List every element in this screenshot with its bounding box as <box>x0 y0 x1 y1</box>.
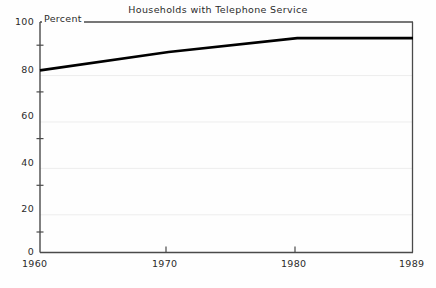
y-tick-label-0: 0 <box>4 246 34 257</box>
x-tick-label-1970: 1970 <box>152 258 177 269</box>
x-tick-label-1989: 1989 <box>399 258 424 269</box>
x-tick-label-1980: 1980 <box>281 258 306 269</box>
chart-container: Households with Telephone Service Percen… <box>0 0 436 288</box>
axis-frame <box>40 22 413 253</box>
data-line-telephone-service <box>40 38 413 70</box>
plot-area <box>0 0 436 288</box>
y-tick-label-20: 20 <box>4 203 34 214</box>
grid-lines <box>40 76 413 215</box>
y-tick-label-80: 80 <box>4 64 34 75</box>
x-ticks <box>166 247 295 253</box>
y-tick-label-100: 100 <box>4 16 34 27</box>
x-tick-label-1960: 1960 <box>22 258 47 269</box>
y-tick-label-60: 60 <box>4 110 34 121</box>
y-tick-label-40: 40 <box>4 157 34 168</box>
